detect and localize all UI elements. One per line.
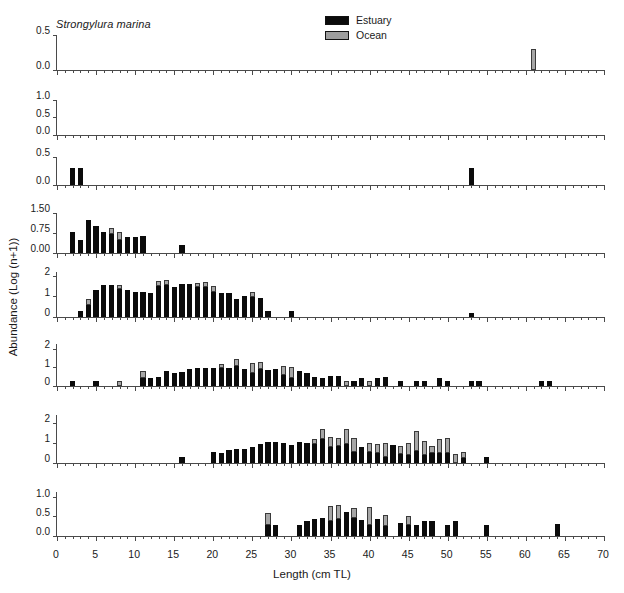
- x-tick-minor: [557, 253, 558, 256]
- x-tick-minor: [198, 317, 199, 320]
- x-axis-tick-label: 20: [206, 548, 218, 560]
- y-tick-label: 0.5: [36, 147, 57, 158]
- x-tick-minor: [166, 317, 167, 320]
- x-tick-minor: [401, 386, 402, 389]
- bar: [320, 518, 325, 536]
- x-tick-minor: [518, 253, 519, 256]
- x-tick-minor: [541, 317, 542, 320]
- bar-segment-estuary: [312, 519, 317, 536]
- x-tick-minor: [338, 253, 339, 256]
- x-tick-minor: [596, 253, 597, 256]
- x-tick-major: [526, 463, 527, 468]
- bar: [78, 168, 83, 185]
- bar: [398, 381, 403, 386]
- bar: [78, 311, 83, 317]
- x-tick-minor: [80, 536, 81, 539]
- x-tick-major: [213, 135, 214, 140]
- x-tick-minor: [112, 135, 113, 138]
- bar-segment-ocean: [328, 437, 333, 447]
- x-tick-minor: [80, 386, 81, 389]
- bar-segment-ocean: [375, 444, 380, 452]
- x-tick-minor: [143, 185, 144, 188]
- x-tick-minor: [346, 386, 347, 389]
- bar-segment-estuary: [265, 442, 270, 463]
- x-tick-minor: [581, 536, 582, 539]
- x-tick-minor: [229, 253, 230, 256]
- bar: [312, 439, 317, 463]
- x-tick-major: [135, 317, 136, 322]
- x-tick-minor: [80, 253, 81, 256]
- x-tick-major: [448, 70, 449, 75]
- bar-segment-ocean: [265, 513, 270, 524]
- bar-segment-estuary: [328, 376, 333, 386]
- bar-segment-ocean: [211, 286, 216, 292]
- y-tick-label: 0.0: [36, 526, 57, 537]
- x-tick-minor: [401, 70, 402, 73]
- bar: [351, 381, 356, 386]
- x-tick-minor: [221, 70, 222, 73]
- x-tick-minor: [112, 536, 113, 539]
- x-tick-major: [526, 135, 527, 140]
- bar-segment-estuary: [234, 366, 239, 386]
- x-tick-minor: [143, 317, 144, 320]
- bar-segment-ocean: [195, 283, 200, 287]
- x-tick-minor: [596, 135, 597, 138]
- x-tick-major: [96, 253, 97, 258]
- bar-segment-estuary: [133, 292, 138, 317]
- y-tick-label: 0.0: [36, 60, 57, 71]
- x-tick-minor: [573, 386, 574, 389]
- bar: [203, 282, 208, 317]
- x-tick-major: [565, 317, 566, 322]
- bar: [398, 446, 403, 463]
- bar: [453, 454, 458, 463]
- x-tick-minor: [323, 253, 324, 256]
- bar: [140, 371, 145, 386]
- bar: [469, 313, 474, 318]
- x-tick-minor: [495, 253, 496, 256]
- x-tick-minor: [182, 185, 183, 188]
- x-tick-minor: [143, 536, 144, 539]
- bar-segment-ocean: [336, 505, 341, 518]
- bar: [125, 290, 130, 317]
- x-tick-major: [448, 317, 449, 322]
- bar-segment-estuary: [437, 453, 442, 463]
- x-tick-major: [604, 463, 605, 468]
- x-tick-minor: [112, 317, 113, 320]
- bar: [429, 521, 434, 536]
- x-tick-minor: [229, 463, 230, 466]
- y-tick-label: 0: [44, 376, 57, 387]
- x-tick-minor: [229, 185, 230, 188]
- x-tick-major: [252, 317, 253, 322]
- bar-segment-estuary: [398, 454, 403, 463]
- bar: [445, 381, 450, 386]
- bar-segment-estuary: [351, 518, 356, 536]
- x-tick-minor: [205, 185, 206, 188]
- x-tick-minor: [268, 135, 269, 138]
- bar: [367, 381, 372, 386]
- bar-segment-estuary: [250, 297, 255, 317]
- x-tick-minor: [88, 135, 89, 138]
- x-tick-minor: [549, 70, 550, 73]
- x-tick-minor: [205, 536, 206, 539]
- bar-segment-estuary: [78, 311, 83, 317]
- x-tick-minor: [159, 70, 160, 73]
- x-tick-major: [57, 253, 58, 258]
- x-tick-minor: [237, 463, 238, 466]
- x-tick-minor: [534, 135, 535, 138]
- bar-segment-estuary: [320, 518, 325, 536]
- bar: [383, 377, 388, 386]
- x-tick-minor: [260, 463, 261, 466]
- x-tick-major: [526, 185, 527, 190]
- x-tick-minor: [73, 463, 74, 466]
- x-tick-minor: [362, 253, 363, 256]
- bar: [195, 283, 200, 317]
- bar: [344, 381, 349, 386]
- bar-segment-ocean: [328, 506, 333, 521]
- bar: [281, 366, 286, 386]
- x-tick-minor: [237, 253, 238, 256]
- x-tick-minor: [190, 536, 191, 539]
- legend-label-estuary: Estuary: [356, 15, 392, 26]
- x-tick-minor: [385, 386, 386, 389]
- x-tick-major: [487, 70, 488, 75]
- x-tick-major: [331, 317, 332, 322]
